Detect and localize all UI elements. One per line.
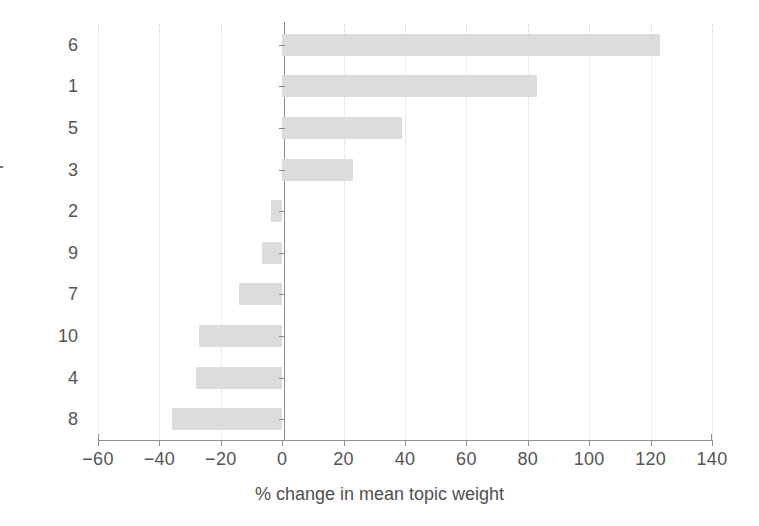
x-tick-label: 80 bbox=[517, 449, 538, 470]
y-tick bbox=[279, 45, 285, 46]
y-tick bbox=[279, 128, 285, 129]
x-tick bbox=[712, 440, 713, 446]
x-tick bbox=[282, 440, 283, 446]
x-gridline bbox=[712, 24, 713, 440]
y-tick-label-topic-8: 8 bbox=[68, 409, 78, 430]
x-tick bbox=[651, 440, 652, 446]
x-tick bbox=[466, 440, 467, 446]
bar-topic-10 bbox=[199, 325, 282, 347]
y-tick-label-topic-4: 4 bbox=[68, 367, 78, 388]
y-tick bbox=[279, 294, 285, 295]
y-tick-label-topic-5: 5 bbox=[68, 118, 78, 139]
x-tick-label: 60 bbox=[456, 449, 477, 470]
x-gridline bbox=[651, 24, 652, 440]
bar-topic-6 bbox=[282, 34, 660, 56]
bar-topic-8 bbox=[172, 408, 283, 430]
x-gridline bbox=[98, 24, 99, 440]
y-tick bbox=[279, 170, 285, 171]
x-tick bbox=[528, 440, 529, 446]
y-tick bbox=[279, 419, 285, 420]
y-tick-label-topic-6: 6 bbox=[68, 34, 78, 55]
x-axis-title: % change in mean topic weight bbox=[0, 484, 759, 505]
y-tick-label-topic-9: 9 bbox=[68, 242, 78, 263]
y-tick-label-topic-2: 2 bbox=[68, 201, 78, 222]
x-tick-label: 100 bbox=[574, 449, 605, 470]
y-tick-label-topic-10: 10 bbox=[58, 326, 78, 347]
x-tick-label: −40 bbox=[144, 449, 175, 470]
x-tick-label: 140 bbox=[697, 449, 728, 470]
x-tick bbox=[98, 440, 99, 446]
bar-topic-5 bbox=[282, 117, 402, 139]
x-tick bbox=[221, 440, 222, 446]
x-gridline bbox=[159, 24, 160, 440]
y-axis-title: Topic number bbox=[0, 80, 4, 188]
y-tick-label-topic-7: 7 bbox=[68, 284, 78, 305]
x-tick-label: 20 bbox=[333, 449, 354, 470]
y-tick bbox=[279, 336, 285, 337]
bar-topic-3 bbox=[282, 159, 353, 181]
x-tick-label: 40 bbox=[395, 449, 416, 470]
bar-topic-1 bbox=[282, 75, 537, 97]
y-tick bbox=[279, 378, 285, 379]
y-tick-label-topic-3: 3 bbox=[68, 159, 78, 180]
x-gridline bbox=[589, 24, 590, 440]
y-tick-labels: 61532971048 bbox=[0, 0, 78, 526]
y-tick bbox=[279, 211, 285, 212]
y-tick bbox=[279, 86, 285, 87]
x-tick bbox=[344, 440, 345, 446]
bar-chart-figure: −60−40−20020406080100120140 61532971048 … bbox=[0, 0, 759, 526]
x-tick bbox=[159, 440, 160, 446]
x-tick-label: 120 bbox=[635, 449, 666, 470]
x-tick bbox=[589, 440, 590, 446]
x-tick-label: 0 bbox=[277, 449, 287, 470]
bar-topic-7 bbox=[239, 283, 282, 305]
bar-topic-4 bbox=[196, 367, 282, 389]
x-tick-label: −60 bbox=[82, 449, 113, 470]
x-tick bbox=[405, 440, 406, 446]
y-tick-label-topic-1: 1 bbox=[68, 76, 78, 97]
x-tick-label: −20 bbox=[205, 449, 236, 470]
y-tick bbox=[279, 253, 285, 254]
